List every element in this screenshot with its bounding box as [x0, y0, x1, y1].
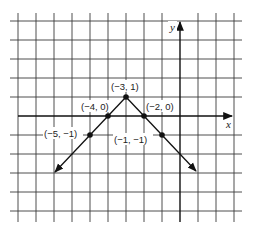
point-neg5-neg1	[87, 132, 93, 138]
point-neg1-neg1	[159, 132, 165, 138]
point-neg3-1	[123, 94, 129, 100]
point-neg4-0	[105, 113, 111, 119]
grid	[10, 13, 242, 222]
label-neg1-neg1: (−1, −1)	[114, 134, 147, 145]
point-neg2-0	[141, 113, 147, 119]
label-neg5-neg1: (−5, −1)	[44, 128, 77, 139]
label-neg4-0: (−4, 0)	[81, 101, 109, 112]
label-neg2-0: (−2, 0)	[146, 101, 174, 112]
coordinate-graph: (−5, −1) (−4, 0) (−3, 1) (−2, 0) (−1, −1…	[0, 0, 257, 232]
y-axis-label: y	[169, 21, 175, 33]
x-axis-label: x	[225, 118, 231, 130]
label-neg3-1: (−3, 1)	[111, 81, 139, 92]
